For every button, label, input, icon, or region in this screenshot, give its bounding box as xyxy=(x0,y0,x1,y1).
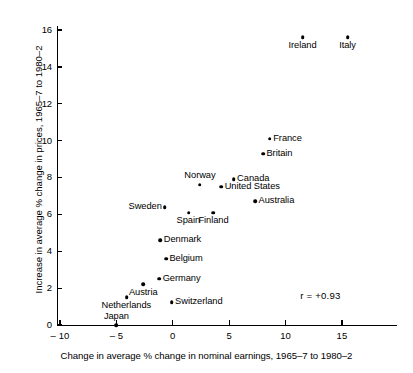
x-tick xyxy=(172,320,173,326)
x-tick xyxy=(285,320,286,326)
data-point-label: France xyxy=(273,134,302,144)
y-tick xyxy=(57,177,62,178)
data-point xyxy=(253,200,257,204)
data-point xyxy=(261,152,265,156)
x-tick-label: 15 xyxy=(337,331,348,341)
data-point-label: Italy xyxy=(339,41,356,51)
data-point xyxy=(346,36,350,40)
plot-area: 0246810121416 – 10– 5051015 ItalyIreland… xyxy=(0,0,413,373)
x-tick-label: – 5 xyxy=(110,331,124,341)
y-axis-title: Increase in average % change in prices, … xyxy=(33,20,44,320)
x-tick-label: 0 xyxy=(170,331,175,341)
scatter-chart: 0246810121416 – 10– 5051015 ItalyIreland… xyxy=(0,0,413,373)
data-point-label: Netherlands xyxy=(102,301,152,311)
x-tick-label: 10 xyxy=(280,331,291,341)
data-point-label: Switzerland xyxy=(175,297,223,307)
x-axis-title: Change in average % change in nominal ea… xyxy=(0,350,413,361)
y-tick-label-wrap: 0 xyxy=(26,320,52,330)
data-point-label: Germany xyxy=(163,274,201,284)
y-tick xyxy=(57,29,62,30)
y-tick xyxy=(57,103,62,104)
y-tick xyxy=(57,214,62,215)
x-axis-line xyxy=(57,325,397,326)
y-tick-label: 0 xyxy=(30,320,52,330)
data-point xyxy=(170,300,174,304)
data-point xyxy=(268,137,272,141)
y-tick xyxy=(57,66,62,67)
data-point-label: Belgium xyxy=(169,254,202,264)
data-point-label: Spain xyxy=(177,216,201,226)
x-tick xyxy=(229,320,230,326)
data-point xyxy=(159,238,163,242)
data-point-label: Denmark xyxy=(164,235,201,245)
data-point-label: Austria xyxy=(129,288,158,298)
data-point xyxy=(164,257,168,261)
y-tick xyxy=(57,288,62,289)
data-point-label: Britain xyxy=(266,149,292,159)
data-point-label: Australia xyxy=(259,196,295,206)
data-point-label: Norway xyxy=(184,171,215,181)
x-tick-label: – 10 xyxy=(51,331,70,341)
data-point xyxy=(220,185,224,189)
data-point xyxy=(163,205,167,209)
data-point xyxy=(212,211,216,215)
data-point xyxy=(301,36,305,40)
data-point-label: Sweden xyxy=(129,202,162,212)
x-tick xyxy=(59,320,60,326)
y-tick xyxy=(57,140,62,141)
y-tick xyxy=(57,251,62,252)
correlation-annotation: r = +0.93 xyxy=(300,290,340,301)
data-point-label: Japan xyxy=(104,312,129,322)
data-point xyxy=(125,296,129,300)
data-point xyxy=(142,283,146,287)
data-point xyxy=(115,323,119,327)
data-point-label: United States xyxy=(225,182,280,192)
data-point xyxy=(157,277,161,281)
data-point xyxy=(187,211,191,215)
data-point-label: Ireland xyxy=(289,41,317,51)
data-point xyxy=(198,183,202,187)
data-point-label: Finland xyxy=(198,216,228,226)
x-tick-label: 5 xyxy=(226,331,231,341)
x-tick xyxy=(341,320,342,326)
